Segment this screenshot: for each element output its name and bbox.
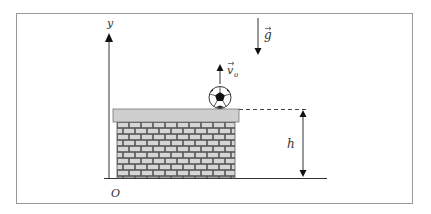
arrowhead-down-icon — [300, 170, 307, 177]
initial-velocity-label: v o — [227, 62, 238, 79]
brick-wall — [113, 109, 239, 178]
height-arrow — [300, 110, 307, 177]
gravity-arrow — [255, 18, 262, 55]
arrowhead-up-icon — [217, 64, 224, 71]
origin-label: O — [111, 187, 120, 200]
wall-top-slab — [113, 109, 239, 122]
svg-text:o: o — [234, 71, 238, 79]
initial-velocity-arrow — [217, 64, 224, 84]
arrowhead-up-icon — [300, 110, 307, 117]
y-axis-label: y — [106, 17, 114, 30]
physics-diagram: y O h v o g — [0, 0, 431, 214]
svg-text:g: g — [264, 28, 272, 42]
svg-text:v: v — [227, 64, 234, 77]
y-axis — [105, 33, 113, 178]
soccer-ball-icon — [209, 87, 231, 109]
gravity-label: g — [264, 27, 272, 42]
height-label: h — [287, 137, 295, 151]
arrowhead-down-icon — [255, 48, 262, 55]
y-axis-arrowhead-icon — [105, 33, 113, 42]
